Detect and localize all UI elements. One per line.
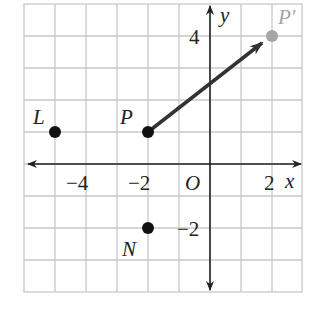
x-tick-label: −4: [66, 171, 89, 195]
x-tick-label: 2: [264, 171, 275, 195]
point-p-prime: [266, 30, 278, 42]
x-tick-label: −2: [128, 171, 150, 195]
translation-vector: [148, 43, 262, 132]
point-n-label: N: [121, 237, 137, 261]
origin-label: O: [185, 171, 200, 195]
y-tick-label: −2: [177, 217, 199, 241]
coordinate-plane: y x O −4 −2 2 4 −2 L P N P′: [0, 0, 325, 315]
point-p-prime-label: P′: [277, 5, 296, 29]
point-l: [49, 126, 61, 138]
grid: [24, 4, 302, 292]
y-axis-label: y: [218, 3, 230, 27]
point-l-label: L: [32, 105, 45, 129]
point-n: [142, 222, 154, 234]
axes: [28, 6, 301, 290]
point-p: [142, 126, 154, 138]
y-tick-label: 4: [189, 25, 200, 49]
x-axis-label: x: [284, 169, 295, 193]
point-p-label: P: [119, 105, 133, 129]
